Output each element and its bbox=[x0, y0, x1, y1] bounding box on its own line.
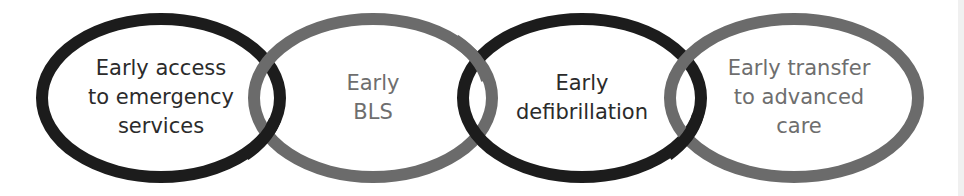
link-2-line-2: BLS bbox=[313, 98, 433, 127]
link-4-line-2: to advanced bbox=[714, 83, 884, 112]
link-3-line-1: Early bbox=[502, 69, 662, 98]
link-2-label: Early BLS bbox=[313, 69, 433, 127]
link-4-line-1: Early transfer bbox=[714, 54, 884, 83]
link-1-label: Early access to emergency services bbox=[71, 54, 251, 141]
link-3-line-2: defibrillation bbox=[502, 98, 662, 127]
link-4-line-3: care bbox=[714, 112, 884, 141]
link-1-line-3: services bbox=[71, 112, 251, 141]
right-edge-strip bbox=[958, 0, 964, 196]
link-4-label: Early transfer to advanced care bbox=[714, 54, 884, 141]
link-2-line-1: Early bbox=[313, 69, 433, 98]
link-1-line-2: to emergency bbox=[71, 83, 251, 112]
link-3-label: Early defibrillation bbox=[502, 69, 662, 127]
link-1-line-1: Early access bbox=[71, 54, 251, 83]
